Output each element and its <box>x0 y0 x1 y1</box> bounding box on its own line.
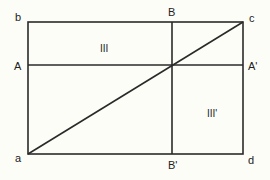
vertex-label-c: c <box>249 13 255 24</box>
point-label-A: A <box>14 61 21 72</box>
region-label-III-prime: III' <box>207 109 217 119</box>
diagram-canvas <box>0 0 270 180</box>
point-label-A-prime: A' <box>248 61 257 72</box>
point-label-B: B <box>168 7 175 18</box>
vertex-label-b: b <box>15 12 21 23</box>
point-label-B-prime: B' <box>168 160 177 171</box>
region-label-III: III <box>100 44 108 54</box>
vertex-label-a: a <box>15 153 21 164</box>
diagonal-line-ac <box>28 22 243 154</box>
vertex-label-d: d <box>248 155 254 166</box>
